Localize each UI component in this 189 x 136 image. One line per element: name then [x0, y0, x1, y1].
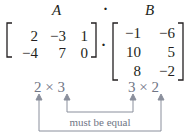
- a-cell: 1: [64, 28, 88, 45]
- times-symbol: ×: [45, 79, 53, 95]
- a-cell: −3: [42, 28, 66, 45]
- b-cell: −6: [151, 25, 175, 42]
- dims-a: 2 × 3: [34, 79, 65, 96]
- a-cell: 2: [14, 28, 38, 45]
- b-cell: 8: [117, 63, 141, 80]
- b-cell: 10: [117, 44, 141, 61]
- a-rows: 2: [34, 79, 42, 95]
- b-cell: −1: [117, 25, 141, 42]
- multiply-dot: ·: [101, 37, 106, 54]
- must-be-equal-note: must be equal: [66, 116, 134, 128]
- b-rows: 3: [128, 79, 136, 95]
- a-cell: 0: [64, 45, 88, 62]
- dims-b: 3 × 2: [128, 79, 159, 96]
- a-cell: −4: [14, 45, 38, 62]
- a-cols: 3: [57, 79, 65, 95]
- b-cell: −2: [151, 63, 175, 80]
- a-cell: 7: [42, 45, 66, 62]
- times-symbol: ×: [139, 79, 147, 95]
- b-cols: 2: [151, 79, 159, 95]
- b-cell: 5: [151, 44, 175, 61]
